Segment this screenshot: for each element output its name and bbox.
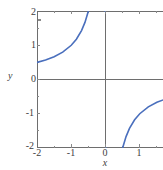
y-tick-label-m1: -1 <box>18 108 34 118</box>
curve-left-branch <box>37 11 105 62</box>
curve-right-branch <box>106 97 163 148</box>
chart-figure: 2 1 0 -1 -2 -2 -1 0 1 2 y x <box>0 0 163 170</box>
plot-area <box>37 11 163 148</box>
y-axis-label: y <box>8 71 12 81</box>
x-tick-label-1: 1 <box>131 148 147 158</box>
y-tick-label-2: 2 <box>20 7 36 17</box>
x-tick-label-m1: -1 <box>63 148 79 158</box>
x-axis-label: x <box>100 158 110 168</box>
x-tick-label-m2: -2 <box>29 148 45 158</box>
y-tick-label-1: 1 <box>20 40 36 50</box>
curve-svg <box>37 11 163 148</box>
y-tick-label-0: 0 <box>20 74 36 84</box>
